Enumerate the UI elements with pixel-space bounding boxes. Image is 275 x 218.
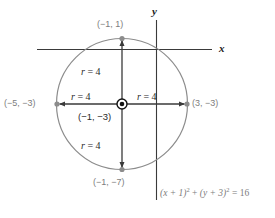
equation-equals: = 16 [230,188,250,198]
radius-label-right-value: = 4 [141,91,157,102]
radius-label-up: r = 4 [81,67,101,77]
point-label-top: (−1, 1) [97,20,123,29]
point-dot-left [54,101,59,106]
center-point-label: (−1, −3) [78,112,111,122]
radius-label-down: r = 4 [81,141,101,151]
x-axis-label: x [219,43,225,54]
radius-label-up-value: = 4 [85,66,101,77]
equation-term-x: (x + 1)2 [160,188,190,198]
circle-diagram-figure: x y (−1, 1) (−1, −7) (−5, −3) (3, −3) (−… [0,0,275,218]
radius-label-down-value: = 4 [85,140,101,151]
point-label-bottom: (−1, −7) [93,178,125,187]
point-label-right: (3, −3) [192,99,218,108]
radius-label-left: r = 4 [71,92,91,102]
circle-equation: (x + 1)2 + (y + 3)2 = 16 [160,187,249,199]
center-marker-dot [120,102,125,107]
y-axis-label: y [152,6,157,17]
equation-plus: + [190,188,200,198]
diagram-canvas [0,0,275,218]
point-dot-bottom [119,167,124,172]
radius-label-left-value: = 4 [75,91,91,102]
point-dot-right [184,101,189,106]
point-label-left: (−5, −3) [4,99,36,108]
radius-label-right: r = 4 [137,92,157,102]
equation-term-y: (y + 3)2 [200,188,230,198]
point-dot-top [119,36,124,41]
